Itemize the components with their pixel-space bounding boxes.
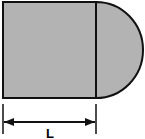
dimension-label: L xyxy=(46,126,54,139)
shape-diagram: L xyxy=(0,0,145,139)
square-region xyxy=(3,2,96,98)
semicircle-region xyxy=(96,2,143,98)
